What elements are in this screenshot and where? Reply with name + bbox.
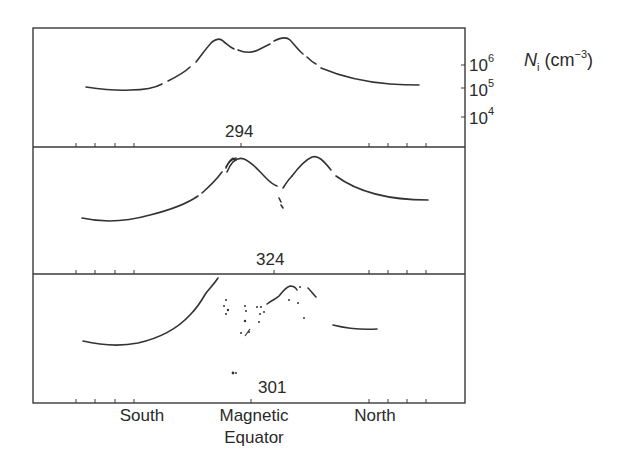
panel-label-301: 301 bbox=[258, 378, 286, 398]
x-label-magnetic-equator: Magnetic Equator bbox=[200, 405, 308, 449]
panel-324-curve bbox=[82, 157, 428, 221]
panel-301-curve bbox=[83, 278, 377, 345]
panel-label-294: 294 bbox=[225, 122, 253, 142]
ytick-1e4: 104 bbox=[469, 105, 494, 129]
ytick-1e6: 106 bbox=[469, 52, 494, 76]
panel-301-scatter-points bbox=[223, 286, 305, 374]
panel-label-324: 324 bbox=[256, 250, 284, 270]
y-axis-title: Ni (cm−3) bbox=[524, 48, 593, 73]
x-label-south: South bbox=[112, 405, 172, 427]
x-label-equator-line2: Equator bbox=[200, 427, 308, 449]
x-ticks bbox=[76, 65, 465, 403]
x-label-north: North bbox=[345, 405, 405, 427]
ytick-1e5: 105 bbox=[469, 77, 494, 101]
x-label-equator-line1: Magnetic bbox=[200, 405, 308, 427]
panel-294-curve bbox=[86, 38, 419, 91]
